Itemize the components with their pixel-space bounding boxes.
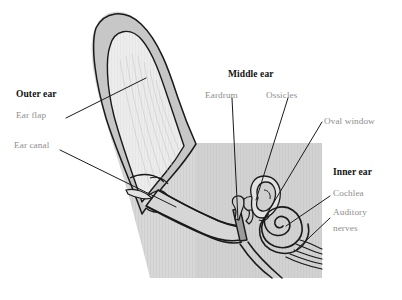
anatomy-illustration bbox=[0, 0, 402, 300]
auditory-nerves-label-line1: Auditory bbox=[333, 208, 367, 218]
ear-flap-label: Ear flap bbox=[16, 111, 46, 121]
cochlea-label: Cochlea bbox=[333, 189, 364, 199]
ossicles-label: Ossicles bbox=[266, 91, 297, 101]
eardrum-label: Eardrum bbox=[205, 91, 238, 101]
ear-anatomy-diagram: Outer ear Ear flap Ear canal Middle ear … bbox=[0, 0, 402, 300]
ear-canal-label: Ear canal bbox=[14, 141, 49, 151]
inner-ear-heading: Inner ear bbox=[333, 168, 372, 178]
auditory-nerves-label-line2: nerves bbox=[333, 224, 358, 234]
outer-ear-heading: Outer ear bbox=[16, 90, 57, 100]
middle-ear-heading: Middle ear bbox=[228, 70, 274, 80]
oval-window-label: Oval window bbox=[324, 117, 375, 127]
